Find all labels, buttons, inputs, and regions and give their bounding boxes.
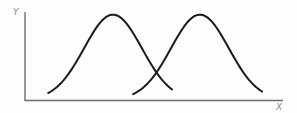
chart: Y X — [0, 0, 297, 113]
x-axis-label: X — [275, 102, 283, 112]
series-layer — [48, 15, 262, 94]
curve-2-line — [133, 15, 262, 94]
y-axis-label: Y — [13, 7, 20, 17]
curve-1-line — [48, 15, 172, 93]
